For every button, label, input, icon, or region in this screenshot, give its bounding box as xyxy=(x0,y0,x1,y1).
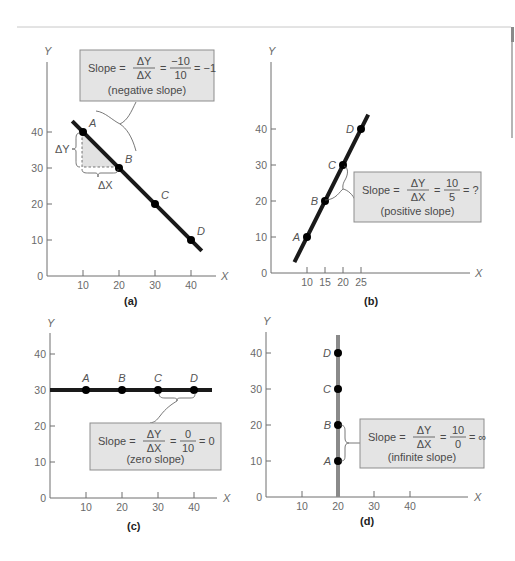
point-label: B xyxy=(118,372,125,384)
delta-y-label: ΔY xyxy=(55,143,70,155)
y-tick-label: 10 xyxy=(31,234,43,246)
slope-annotation-box: Slope =ΔYΔX=−1010= −1(negative slope) xyxy=(80,50,216,101)
point-b xyxy=(115,164,123,172)
x-tick-label: 20 xyxy=(113,279,125,291)
point-c xyxy=(339,161,347,169)
point-label: B xyxy=(324,419,331,431)
slope-annotation-box: Slope =ΔYΔX=105= ?(positive slope) xyxy=(354,172,481,222)
x-axis-label: X xyxy=(220,270,229,282)
side-bar xyxy=(511,27,513,138)
y-tick-label: 0 xyxy=(40,492,46,504)
slope-result: = 0 xyxy=(199,435,215,447)
x-tick-label: 40 xyxy=(185,279,197,291)
point-a xyxy=(82,386,90,394)
annotation-leader xyxy=(96,102,136,151)
y-tick-label: 30 xyxy=(250,383,262,395)
x-tick-label: 20 xyxy=(337,276,349,288)
point-label: D xyxy=(197,225,205,237)
y-tick-label: 30 xyxy=(34,384,46,396)
value-numerator: 0 xyxy=(185,428,191,440)
slope-label: Slope = xyxy=(362,184,400,196)
panel-caption: (d) xyxy=(360,515,374,527)
slope-result: = ? xyxy=(463,184,479,196)
point-label: B xyxy=(311,195,318,207)
x-tick-label: 30 xyxy=(149,279,161,291)
slope-note: (negative slope) xyxy=(108,84,186,96)
point-d xyxy=(190,386,198,394)
panel-a: 01020304010203040 Y X ABCD ΔY ΔX Slope =… xyxy=(31,45,229,307)
y-tick-label: 0 xyxy=(37,270,43,282)
panel-caption: (c) xyxy=(127,520,141,532)
y-tick-label: 0 xyxy=(261,267,267,279)
data-line xyxy=(72,121,202,251)
fraction-denominator: ΔX xyxy=(411,191,426,203)
y-tick-label: 0 xyxy=(256,491,262,503)
fraction-denominator: ΔX xyxy=(137,69,152,81)
panel-caption: (a) xyxy=(124,295,138,307)
axes xyxy=(271,62,470,273)
y-tick-label: 40 xyxy=(31,126,43,138)
y-axis-label: Y xyxy=(263,315,271,327)
slope-label: Slope = xyxy=(368,431,406,443)
point-d xyxy=(334,349,342,357)
x-tick-label: 20 xyxy=(332,500,344,512)
value-denominator: 0 xyxy=(455,438,461,450)
point-d xyxy=(187,236,195,244)
y-axis-label: Y xyxy=(47,317,55,329)
axes xyxy=(50,333,217,498)
equals-sign: = xyxy=(434,184,440,196)
y-axis-label: Y xyxy=(268,45,276,57)
point-c xyxy=(334,385,342,393)
x-tick-label: 40 xyxy=(188,501,200,513)
fraction-denominator: ΔX xyxy=(417,438,432,450)
point-label: A xyxy=(292,231,300,243)
y-axis-label: Y xyxy=(44,45,52,57)
slope-annotation-box: Slope =ΔYΔX=100= ∞(infinite slope) xyxy=(360,419,486,468)
fraction-numerator: ΔY xyxy=(417,424,432,436)
panel-c: 01020304010203040 Y X ABCD Slope =ΔYΔX=0… xyxy=(34,317,231,532)
equals-sign: = xyxy=(440,431,446,443)
y-tick-label: 20 xyxy=(250,419,262,431)
x-tick-label: 20 xyxy=(116,501,128,513)
point-label: D xyxy=(323,347,331,359)
x-tick-label: 15 xyxy=(319,276,331,288)
x-tick-label: 25 xyxy=(355,276,367,288)
y-tick-label: 10 xyxy=(250,455,262,467)
y-tick-label: 10 xyxy=(255,231,267,243)
delta-x-label: ΔX xyxy=(98,179,113,191)
x-tick-label: 10 xyxy=(296,500,308,512)
y-tick-label: 40 xyxy=(250,347,262,359)
point-label: B xyxy=(125,153,132,165)
panel-caption: (b) xyxy=(364,295,378,307)
x-axis-label: X xyxy=(222,492,231,504)
point-c xyxy=(151,200,159,208)
point-label: D xyxy=(346,123,354,135)
annotation-leader xyxy=(150,393,195,423)
value-numerator: −10 xyxy=(171,55,190,67)
slope-annotation-box: Slope =ΔYΔX=010= 0(zero slope) xyxy=(90,423,221,470)
slope-result: = ∞ xyxy=(469,431,486,443)
x-tick-label: 10 xyxy=(301,276,313,288)
value-denominator: 5 xyxy=(449,191,455,203)
x-axis-label: X xyxy=(474,267,483,279)
panel-b: 01020304010152025 Y X ABCD Slope =ΔYΔX=1… xyxy=(255,45,483,307)
point-label: C xyxy=(161,189,169,201)
x-tick-label: 30 xyxy=(368,500,380,512)
y-tick-label: 10 xyxy=(34,456,46,468)
panel-d: 01020304010203040 Y X ABCD Slope =ΔYΔX=1… xyxy=(250,315,486,527)
point-label: A xyxy=(88,117,96,129)
point-label: C xyxy=(323,383,331,395)
value-denominator: 10 xyxy=(174,69,186,81)
y-tick-label: 40 xyxy=(255,123,267,135)
delta-x-brace xyxy=(82,169,118,177)
fraction-numerator: ΔY xyxy=(411,177,426,189)
point-a xyxy=(79,128,87,136)
y-tick-label: 20 xyxy=(255,195,267,207)
y-tick-label: 30 xyxy=(31,162,43,174)
y-tick-label: 20 xyxy=(31,198,43,210)
slope-note: (infinite slope) xyxy=(388,451,456,463)
equals-sign: = xyxy=(160,62,166,74)
fraction-numerator: ΔY xyxy=(147,428,162,440)
y-tick-label: 30 xyxy=(255,159,267,171)
x-tick-label: 10 xyxy=(77,279,89,291)
